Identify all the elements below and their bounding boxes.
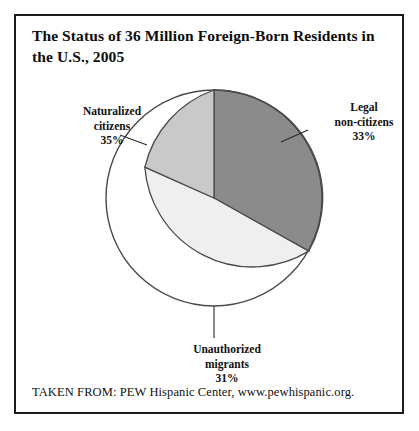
pie-label-legal-line2: non-citizens — [312, 115, 416, 130]
pie-label-legal-line1: Legal — [312, 100, 416, 115]
figure-frame: The Status of 36 Million Foreign-Born Re… — [14, 14, 404, 414]
pie-label-naturalized-citizens: Naturalized citizens 35% — [58, 104, 166, 148]
source-attribution: TAKEN FROM: PEW Hispanic Center, www.pew… — [32, 385, 354, 400]
pie-label-unauthorized-percent: 31% — [166, 371, 288, 386]
pie-label-unauthorized-line1: Unauthorized — [166, 342, 288, 357]
pie-chart: Naturalized citizens 35% Legal non-citiz… — [16, 16, 402, 412]
figure-container: The Status of 36 Million Foreign-Born Re… — [0, 0, 419, 431]
pie-label-unauthorized-migrants: Unauthorized migrants 31% — [166, 342, 288, 386]
pie-label-naturalized-line1: Naturalized — [58, 104, 166, 119]
pie-label-legal-percent: 33% — [312, 129, 416, 144]
pie-label-unauthorized-line2: migrants — [166, 357, 288, 372]
pie-label-legal-non-citizens: Legal non-citizens 33% — [312, 100, 416, 144]
pie-label-naturalized-line2: citizens — [58, 119, 166, 134]
pie-label-naturalized-percent: 35% — [58, 133, 166, 148]
